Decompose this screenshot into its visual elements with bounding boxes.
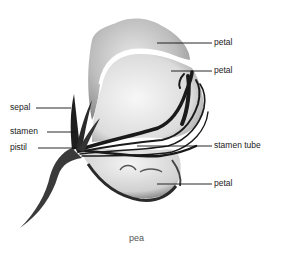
- label-stamen-tube: stamen tube: [214, 140, 261, 150]
- label-stamen: stamen: [10, 126, 38, 136]
- stem: [20, 148, 82, 228]
- label-pistil: pistil: [10, 142, 27, 152]
- diagram-caption: pea: [129, 233, 144, 243]
- label-petal-lower: petal: [214, 178, 232, 188]
- pea-flower-diagram: petal petal sepal stamen pistil stamen t…: [0, 0, 281, 263]
- pea-flower-illustration: [0, 0, 281, 263]
- label-petal-top: petal: [214, 37, 232, 47]
- label-petal-upper: petal: [214, 65, 232, 75]
- label-sepal: sepal: [10, 102, 30, 112]
